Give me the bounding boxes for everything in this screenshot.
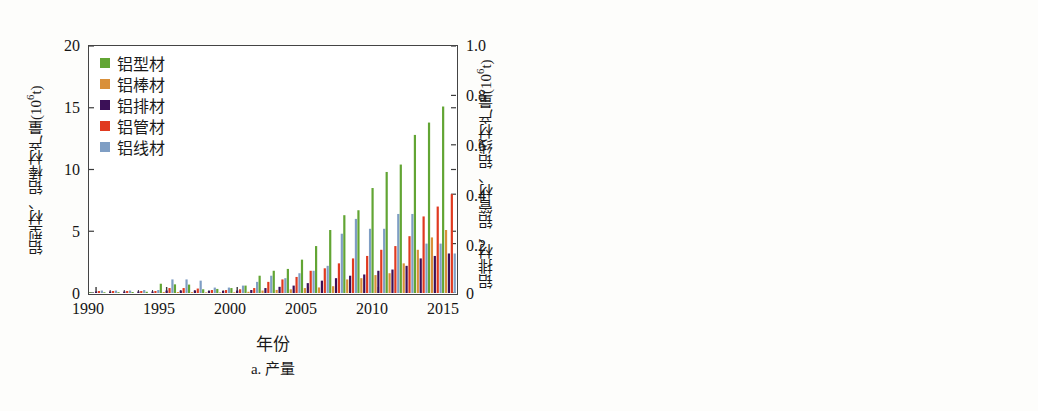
legend-swatch-icon-4 <box>100 142 110 152</box>
legend-item-2[interactable]: 铝排材 <box>100 94 165 115</box>
panel-a-xtick-1995: 1995 <box>132 300 186 318</box>
panel-a-ytick-5: 5 <box>46 223 80 241</box>
panel-a-xaxis-title: 年份 <box>123 330 423 355</box>
legend-item-1[interactable]: 铝棒材 <box>100 73 165 94</box>
panel-a-ytick-15: 15 <box>46 99 80 117</box>
panel-b-structure: 铝挤压材生产结构(%) 100 90 80 70 60 50 40 30 20 … <box>519 0 1038 411</box>
panel-a-rtick-1p0: 1.0 <box>466 37 500 55</box>
panel-a-xtick-2000: 2000 <box>203 300 257 318</box>
legend-swatch-icon-2 <box>100 100 110 110</box>
legend-item-4[interactable]: 铝线材 <box>100 136 165 157</box>
legend-item-3[interactable]: 铝管材 <box>100 115 165 136</box>
panel-a-rtick-0p2: 0.2 <box>466 237 500 255</box>
panel-a-rtick-0p6: 0.6 <box>466 137 500 155</box>
panel-a-right-axis-label: 铝排材、铝管材、铝线材产量(106t) <box>474 40 496 308</box>
legend-label-4: 铝线材 <box>117 135 165 159</box>
panel-a-caption: a. 产量 <box>123 357 423 378</box>
figure-container: 铝型材、铝棒材产量(106t) 铝排材、铝管材、铝线材产量(106t) 20 1… <box>0 0 1038 411</box>
legend-swatch-icon-0 <box>100 58 110 68</box>
panel-a-rtick-0p8: 0.8 <box>466 87 500 105</box>
legend-item-0[interactable]: 铝型材 <box>100 52 165 73</box>
panel-a-ytick-20: 20 <box>46 37 80 55</box>
legend-swatch-icon-1 <box>100 79 110 89</box>
panel-a-xtick-2005: 2005 <box>274 300 328 318</box>
panel-a-xtick-2010: 2010 <box>345 300 399 318</box>
panel-a-ytick-10: 10 <box>46 161 80 179</box>
panel-a-xtick-1990: 1990 <box>61 300 115 318</box>
legend: 铝型材 铝棒材 铝排材 铝管材 铝线材 <box>100 52 165 157</box>
legend-swatch-icon-3 <box>100 121 110 131</box>
panel-a-rtick-0: 0 <box>466 285 500 303</box>
panel-a-left-axis-label: 铝型材、铝棒材产量(106t) <box>24 46 46 294</box>
panel-a-rtick-0p4: 0.4 <box>466 187 500 205</box>
panel-a-production: 铝型材、铝棒材产量(106t) 铝排材、铝管材、铝线材产量(106t) 20 1… <box>0 0 519 411</box>
panel-a-xtick-2015: 2015 <box>416 300 470 318</box>
